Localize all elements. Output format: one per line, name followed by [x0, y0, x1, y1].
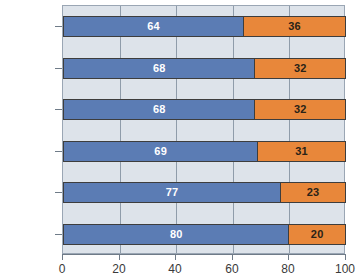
gridline-20: [120, 6, 121, 253]
x-tick-label-60: 60: [225, 262, 238, 276]
bar-row[interactable]: 8020: [63, 224, 344, 245]
bar-segment-series-b[interactable]: 36: [243, 16, 346, 37]
x-tick-100: [345, 254, 346, 260]
category-tick: [55, 109, 62, 110]
x-tick-0: [62, 254, 63, 260]
x-tick-label-40: 40: [168, 262, 181, 276]
bar-segment-series-b[interactable]: 32: [254, 99, 346, 120]
bar-value-label: 31: [295, 146, 308, 157]
gridline-60: [233, 6, 234, 253]
x-tick-label-0: 0: [59, 262, 66, 276]
bar-value-label: 64: [147, 21, 160, 32]
x-tick-40: [175, 254, 176, 260]
category-tick: [55, 234, 62, 235]
bar-row[interactable]: 6436: [63, 16, 344, 37]
bar-row[interactable]: 7723: [63, 182, 344, 203]
category-tick: [55, 68, 62, 69]
bar-value-label: 77: [166, 187, 179, 198]
bar-value-label: 80: [170, 229, 183, 240]
x-tick-60: [232, 254, 233, 260]
bar-segment-series-a[interactable]: 80: [63, 224, 289, 245]
category-tick: [55, 26, 62, 27]
bar-segment-series-a[interactable]: 69: [63, 141, 258, 162]
bar-value-label: 32: [294, 104, 307, 115]
bar-segment-series-b[interactable]: 32: [254, 58, 346, 79]
bar-row[interactable]: 6832: [63, 58, 344, 79]
category-tick: [55, 151, 62, 152]
bar-value-label: 68: [153, 104, 166, 115]
category-tick: [55, 192, 62, 193]
stacked-bar-chart: 643668326832693177238020 ComputerInsuran…: [0, 0, 359, 280]
x-tick-label-80: 80: [281, 262, 294, 276]
bar-segment-series-a[interactable]: 64: [63, 16, 244, 37]
bar-value-label: 36: [288, 21, 301, 32]
bar-row[interactable]: 6931: [63, 141, 344, 162]
bar-segment-series-a[interactable]: 68: [63, 99, 255, 120]
bar-segment-series-a[interactable]: 68: [63, 58, 255, 79]
x-tick-label-100: 100: [335, 262, 355, 276]
x-tick-label-20: 20: [112, 262, 125, 276]
x-tick-20: [119, 254, 120, 260]
bar-value-label: 69: [154, 146, 167, 157]
bar-value-label: 23: [307, 187, 320, 198]
plot-area: 643668326832693177238020: [62, 5, 345, 254]
x-tick-80: [288, 254, 289, 260]
x-axis-line: [62, 254, 345, 255]
bar-segment-series-b[interactable]: 20: [288, 224, 346, 245]
bar-value-label: 68: [153, 63, 166, 74]
bar-segment-series-b[interactable]: 31: [257, 141, 346, 162]
bar-segment-series-a[interactable]: 77: [63, 182, 281, 203]
bar-row[interactable]: 6832: [63, 99, 344, 120]
bar-segment-series-b[interactable]: 23: [280, 182, 346, 203]
bar-value-label: 20: [311, 229, 324, 240]
bar-value-label: 32: [294, 63, 307, 74]
gridline-80: [289, 6, 290, 253]
gridline-40: [176, 6, 177, 253]
